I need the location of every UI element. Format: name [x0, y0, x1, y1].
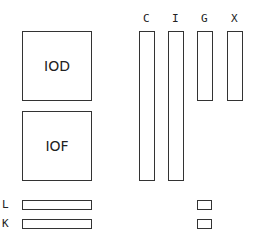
iof-block: IOF: [22, 111, 92, 181]
cell-l-g: [197, 200, 212, 210]
iod-label: IOD: [44, 58, 70, 74]
column-label-i: I: [172, 12, 179, 25]
column-bar-i: [168, 31, 184, 181]
cell-k-g: [197, 219, 212, 229]
column-bar-c: [139, 31, 155, 181]
row-bar-l: [22, 200, 92, 210]
row-label-k: K: [2, 217, 9, 230]
iof-label: IOF: [45, 138, 68, 154]
row-label-l: L: [2, 198, 9, 211]
iod-block: IOD: [22, 31, 92, 101]
column-bar-g: [197, 31, 213, 101]
column-label-x: X: [231, 12, 238, 25]
row-bar-k: [22, 219, 92, 229]
column-label-c: C: [143, 12, 150, 25]
column-bar-x: [227, 31, 243, 101]
column-label-g: G: [201, 12, 208, 25]
